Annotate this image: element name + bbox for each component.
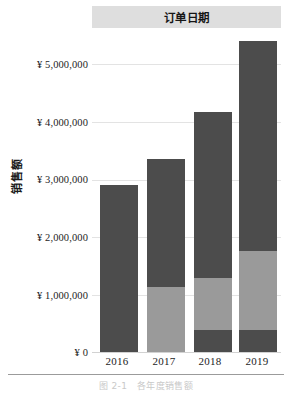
plot-area [92,28,281,352]
bar-segment-2017-0[interactable] [147,287,185,352]
bar-segment-2019-1[interactable] [239,251,277,330]
figure-caption: 图 2-1 各年度销售额 [0,379,292,392]
y-tick-label-5: ¥ 0 [16,347,88,358]
y-axis-tick-labels: ¥ 5,000,000¥ 4,000,000¥ 3,000,000¥ 2,000… [14,0,88,393]
x-axis-tick-labels: 2016201720182019 [92,355,281,371]
y-tick-label-1: ¥ 4,000,000 [16,117,88,128]
x-axis-line [92,352,281,353]
y-tick-label-0: ¥ 5,000,000 [16,59,88,70]
x-tick-label-2019: 2019 [234,355,280,367]
footer-divider [8,374,284,375]
bar-segment-2017-1[interactable] [147,159,185,287]
chart-figure: 订单日期 销售额 ¥ 5,000,000¥ 4,000,000¥ 3,000,0… [0,0,292,393]
x-tick-label-2018: 2018 [187,355,233,367]
bar-segment-2018-2[interactable] [194,112,232,278]
bar-segment-2019-0[interactable] [239,330,277,352]
y-tick-label-2: ¥ 3,000,000 [16,174,88,185]
column-field-label: 订单日期 [164,9,210,25]
bar-segment-2018-1[interactable] [194,278,232,330]
bar-segment-2019-2[interactable] [239,41,277,251]
bar-segment-2016-0[interactable] [100,185,138,352]
x-tick-label-2017: 2017 [141,355,187,367]
bar-segment-2018-0[interactable] [194,330,232,352]
y-tick-label-4: ¥ 1,000,000 [16,290,88,301]
y-tick-label-3: ¥ 2,000,000 [16,232,88,243]
column-field-header: 订单日期 [92,6,281,28]
x-tick-label-2016: 2016 [94,355,140,367]
